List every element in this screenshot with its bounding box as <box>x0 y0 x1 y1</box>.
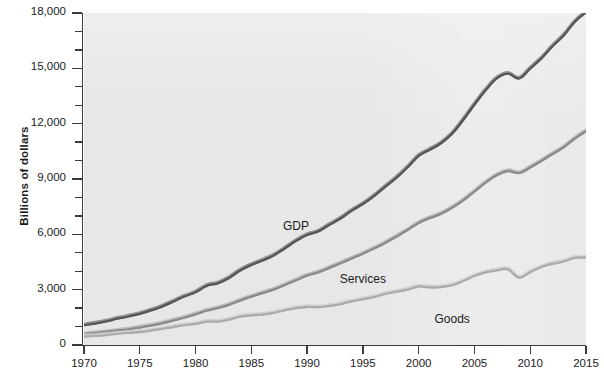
y-tick-minor <box>75 307 82 308</box>
x-tick-label: 2005 <box>444 357 504 369</box>
x-tick-major <box>83 346 84 354</box>
y-tick-minor <box>75 86 82 87</box>
y-tick-major <box>72 178 82 179</box>
y-tick-minor <box>75 49 82 50</box>
x-tick-label: 2010 <box>500 357 560 369</box>
y-tick-major <box>72 123 82 124</box>
y-tick-label: 15,000 <box>6 60 66 72</box>
y-tick-minor <box>75 252 82 253</box>
y-tick-major <box>72 234 82 235</box>
x-tick-major <box>362 346 363 354</box>
x-tick-major <box>474 346 475 354</box>
series-label-services: Services <box>340 272 386 286</box>
y-tick-label: 3,000 <box>6 282 66 294</box>
x-tick-major <box>585 346 586 354</box>
x-tick-label: 1985 <box>221 357 281 369</box>
x-tick-major <box>306 346 307 354</box>
x-tick-major <box>195 346 196 354</box>
y-tick-label: 6,000 <box>6 226 66 238</box>
y-tick-major <box>72 12 82 13</box>
y-tick-minor <box>75 31 82 32</box>
y-tick-minor <box>75 160 82 161</box>
x-tick-label: 1980 <box>166 357 226 369</box>
x-tick-major <box>251 346 252 354</box>
y-tick-major <box>72 344 82 345</box>
x-tick-label: 1995 <box>333 357 393 369</box>
x-tick-major <box>139 346 140 354</box>
y-tick-minor <box>75 105 82 106</box>
x-tick-label: 2000 <box>389 357 449 369</box>
y-axis-line <box>82 13 83 346</box>
y-tick-minor <box>75 141 82 142</box>
gdp-goods-services-line-chart: Billions of dollars GDPServicesGoods 18,… <box>0 0 604 383</box>
y-tick-major <box>72 68 82 69</box>
y-tick-minor <box>75 271 82 272</box>
x-tick-label: 2015 <box>556 357 604 369</box>
x-tick-label: 1970 <box>54 357 114 369</box>
y-tick-minor <box>75 215 82 216</box>
y-tick-label: 12,000 <box>6 116 66 128</box>
y-tick-label: 18,000 <box>6 5 66 17</box>
y-tick-minor <box>75 197 82 198</box>
series-label-goods: Goods <box>434 312 469 326</box>
x-axis-line <box>82 345 586 346</box>
x-tick-major <box>418 346 419 354</box>
x-tick-label: 1975 <box>110 357 170 369</box>
plot-area: GDPServicesGoods <box>84 13 586 345</box>
series-layer <box>84 13 586 345</box>
y-tick-major <box>72 289 82 290</box>
y-tick-label: 9,000 <box>6 171 66 183</box>
series-label-gdp: GDP <box>283 219 309 233</box>
y-tick-label: 0 <box>6 337 66 349</box>
x-tick-label: 1990 <box>277 357 337 369</box>
y-tick-minor <box>75 326 82 327</box>
x-tick-major <box>530 346 531 354</box>
